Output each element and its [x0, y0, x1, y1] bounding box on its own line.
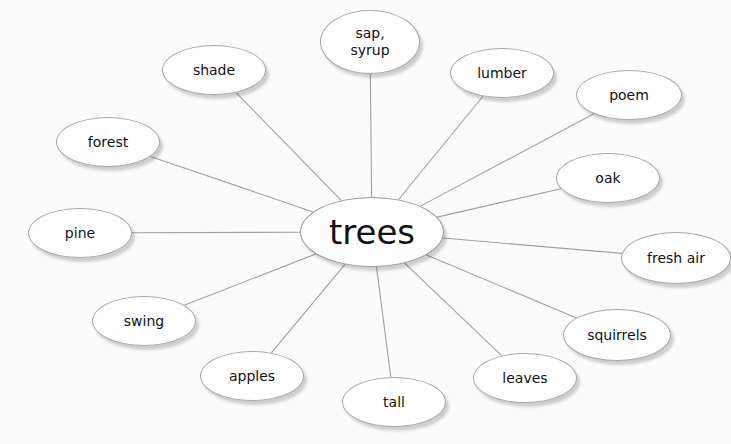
connector-line-squirrels: [426, 255, 576, 318]
node-leaves: leaves: [473, 353, 577, 403]
node-lumber: lumber: [450, 48, 554, 98]
node-fresh-air: fresh air: [621, 232, 731, 284]
node-shade: shade: [162, 45, 266, 95]
connector-line-swing: [184, 254, 315, 305]
connector-line-tall: [377, 267, 391, 377]
node-poem: poem: [576, 70, 682, 120]
connector-line-forest: [150, 156, 313, 211]
concept-web-diagram: trees sap, syrup lumber poem oak fresh a…: [0, 0, 731, 444]
node-sap-syrup: sap, syrup: [320, 10, 420, 74]
node-pine: pine: [28, 208, 132, 258]
node-swing: swing: [92, 296, 196, 346]
connector-line-apples: [271, 264, 345, 352]
connector-line-pine: [132, 232, 300, 233]
node-squirrels: squirrels: [563, 309, 671, 361]
connector-line-leaves: [405, 263, 502, 355]
connector-line-shade: [236, 93, 341, 201]
connector-line-oak: [437, 189, 561, 217]
connector-line-fresh-air: [443, 238, 622, 253]
node-tall: tall: [342, 377, 446, 427]
node-oak: oak: [556, 153, 660, 203]
connector-line-lumber: [399, 96, 483, 199]
center-node-trees: trees: [300, 197, 444, 267]
connector-line-sap-syrup: [370, 74, 371, 197]
node-forest: forest: [56, 117, 160, 167]
node-apples: apples: [200, 351, 304, 401]
